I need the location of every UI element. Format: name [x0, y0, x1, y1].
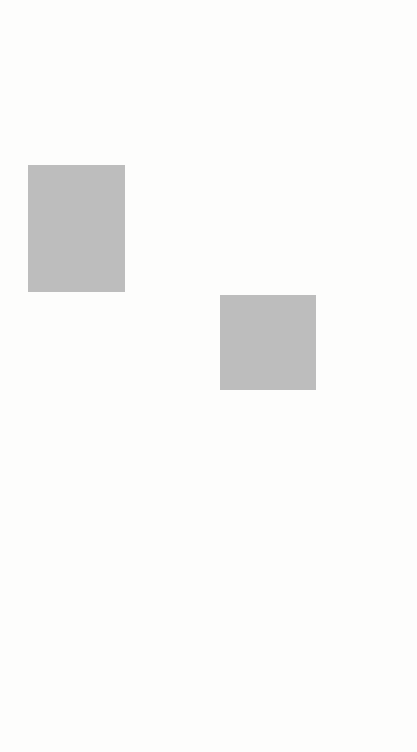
shade-night-13 — [28, 165, 125, 292]
shade-night-14 — [220, 295, 316, 390]
rotated-book-page — [0, 0, 417, 752]
